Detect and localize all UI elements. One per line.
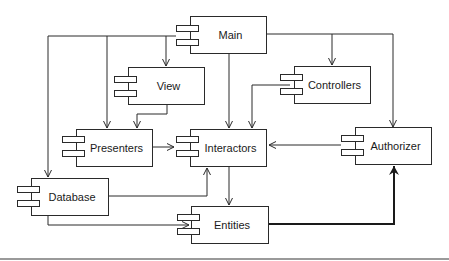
component-label: Database xyxy=(44,191,95,203)
component-port-icon xyxy=(114,90,137,97)
component-label: Controllers xyxy=(304,79,361,91)
component-main: Main xyxy=(190,16,267,54)
component-authorizer: Authorizer xyxy=(355,127,432,165)
component-port-icon xyxy=(176,25,199,32)
component-entities: Entities xyxy=(191,206,269,244)
component-port-icon xyxy=(177,214,200,221)
component-port-icon xyxy=(176,150,199,157)
component-label: Presenters xyxy=(86,142,143,154)
component-label: Authorizer xyxy=(366,140,420,152)
component-port-icon xyxy=(62,150,85,157)
component-port-icon xyxy=(341,149,364,156)
component-label: Entities xyxy=(210,219,250,231)
component-port-icon xyxy=(114,76,137,83)
component-view: View xyxy=(128,67,205,105)
component-port-icon xyxy=(17,186,40,193)
component-label: Interactors xyxy=(201,142,257,154)
component-port-icon xyxy=(17,200,40,207)
bottom-divider xyxy=(0,258,449,260)
component-controllers: Controllers xyxy=(294,66,371,104)
arrow-database-to-entities xyxy=(48,215,189,225)
component-label: View xyxy=(153,80,181,92)
component-port-icon xyxy=(341,135,364,142)
component-port-icon xyxy=(62,136,85,143)
component-interactors: Interactors xyxy=(190,129,267,167)
component-port-icon xyxy=(176,39,199,46)
arrow-database-to-interactors xyxy=(108,168,207,196)
component-presenters: Presenters xyxy=(76,129,153,167)
component-port-icon xyxy=(280,74,303,81)
component-port-icon xyxy=(176,136,199,143)
component-port-icon xyxy=(177,228,200,235)
component-database: Database xyxy=(31,178,109,216)
component-label: Main xyxy=(215,29,243,41)
component-port-icon xyxy=(280,88,303,95)
arrow-entities-to-authorizer xyxy=(268,166,394,224)
arrow-view-to-presenters xyxy=(137,104,167,128)
arrow-main-to-controllers xyxy=(267,34,332,65)
